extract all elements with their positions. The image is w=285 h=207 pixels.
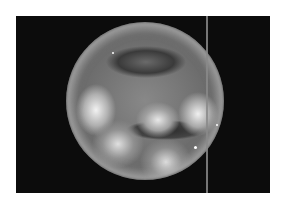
light-glint	[112, 52, 114, 54]
endoscopic-view	[66, 22, 224, 180]
image-frame	[16, 16, 270, 193]
scope-rim	[66, 22, 224, 180]
vertical-marker-line	[206, 16, 208, 193]
light-glint	[194, 146, 197, 149]
light-glint	[216, 124, 218, 126]
